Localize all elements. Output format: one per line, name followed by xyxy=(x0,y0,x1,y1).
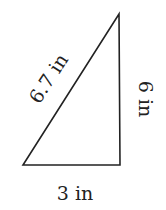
base-label: 3 in xyxy=(57,182,93,204)
triangle-diagram: 6.7 in 6 in 3 in xyxy=(0,0,166,210)
triangle-svg: 6.7 in 6 in 3 in xyxy=(0,0,166,210)
vertical-side-label: 6 in xyxy=(135,81,157,117)
